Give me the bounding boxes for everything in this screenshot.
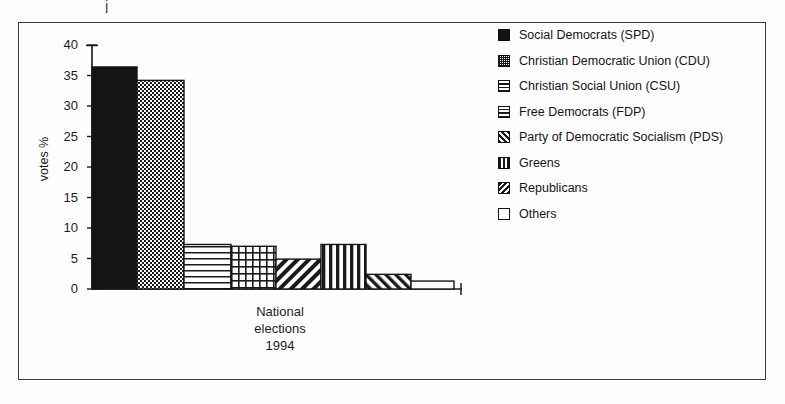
- bar-dotted: [137, 80, 184, 289]
- legend-label: Others: [519, 207, 557, 222]
- legend-item: Christian Democratic Union (CDU): [498, 54, 778, 69]
- y-tick-label-15: 15: [44, 191, 78, 204]
- legend-swatch-horizontal-lines: [498, 80, 510, 92]
- y-tick-label-40: 40: [44, 38, 78, 51]
- bar-empty: [411, 281, 454, 289]
- x-axis-label-line: 1994: [200, 337, 360, 354]
- legend-swatch-empty: [498, 208, 510, 220]
- x-axis-label-line: elections: [200, 320, 360, 337]
- legend-item: Christian Social Union (CSU): [498, 79, 778, 94]
- y-axis-label: votes %: [37, 129, 51, 189]
- legend-label: Party of Democratic Socialism (PDS): [519, 130, 723, 145]
- chart-page: j: [0, 0, 785, 404]
- legend-item: Others: [498, 207, 778, 222]
- y-tick-label-35: 35: [44, 69, 78, 82]
- legend-swatch-dotted: [498, 55, 510, 67]
- bars-group: [92, 67, 454, 289]
- legend-label: Christian Social Union (CSU): [519, 79, 680, 94]
- legend-item: Social Democrats (SPD): [498, 28, 778, 43]
- bar-diagonal-forward: [276, 259, 321, 289]
- legend-label: Greens: [519, 156, 560, 171]
- chart-legend: Social Democrats (SPD)Christian Democrat…: [498, 28, 778, 232]
- legend-label: Social Democrats (SPD): [519, 28, 654, 43]
- legend-item: Party of Democratic Socialism (PDS): [498, 130, 778, 145]
- y-tick-label-0: 0: [44, 282, 78, 295]
- bar-vertical-lines: [321, 244, 366, 289]
- legend-item: Free Democrats (FDP): [498, 105, 778, 120]
- legend-swatch-grid: [498, 106, 510, 118]
- bar-solid-black: [92, 67, 137, 289]
- x-axis-label: Nationalelections1994: [200, 303, 360, 354]
- legend-swatch-solid-black: [498, 29, 510, 41]
- bar-horizontal-lines: [184, 244, 231, 289]
- y-tick-label-10: 10: [44, 221, 78, 234]
- bar-grid: [231, 246, 276, 289]
- bar-diagonal-back: [366, 274, 411, 289]
- legend-swatch-diagonal-back: [498, 182, 510, 194]
- legend-item: Republicans: [498, 181, 778, 196]
- y-tick-label-30: 30: [44, 99, 78, 112]
- legend-label: Republicans: [519, 181, 588, 196]
- legend-swatch-vertical-lines: [498, 157, 510, 169]
- legend-label: Christian Democratic Union (CDU): [519, 54, 710, 69]
- y-tick-label-5: 5: [44, 252, 78, 265]
- legend-item: Greens: [498, 156, 778, 171]
- x-axis-label-line: National: [200, 303, 360, 320]
- legend-label: Free Democrats (FDP): [519, 105, 645, 120]
- legend-swatch-diagonal-forward: [498, 131, 510, 143]
